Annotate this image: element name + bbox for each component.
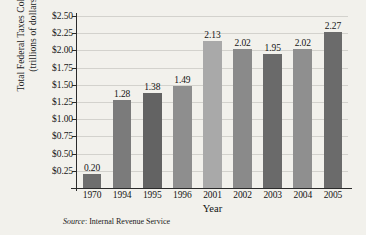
y-axis-tick-label: $1.00 xyxy=(33,114,73,124)
y-axis-tick-mark xyxy=(72,33,77,34)
bar-value-label: 1.38 xyxy=(144,82,160,92)
bar xyxy=(263,54,282,188)
bar-value-label: 0.20 xyxy=(84,163,100,173)
y-axis-tick-label: $1.75 xyxy=(33,63,73,73)
x-axis-tick-label: 2005 xyxy=(324,190,343,200)
bar-series: 0.201.281.381.492.132.021.952.022.27 xyxy=(77,16,348,188)
source-value: : Internal Revenue Service xyxy=(85,217,170,226)
y-axis-tick-mark xyxy=(72,136,77,137)
bar-slot: 1.38 xyxy=(143,16,162,188)
y-axis-tick-label: $1.25 xyxy=(33,97,73,107)
y-axis-tick-label: $2.50 xyxy=(33,11,73,21)
y-axis-tick-label: $0.75 xyxy=(33,131,73,141)
bar-slot: 2.02 xyxy=(293,16,312,188)
bar-slot: 1.95 xyxy=(263,16,282,188)
bar xyxy=(113,100,132,188)
y-axis-tick-label: $0.25 xyxy=(33,166,73,176)
x-axis-tick-label: 1996 xyxy=(173,190,192,200)
x-axis-tick-label: 2001 xyxy=(203,190,222,200)
bar-value-label: 2.13 xyxy=(204,30,220,40)
plot-area: 0.201.281.381.492.132.021.952.022.27 xyxy=(77,16,348,188)
x-axis-tick-label: 1995 xyxy=(143,190,162,200)
y-axis-tick-labels: $0.25$0.50$0.75$1.00$1.25$1.50$1.75$2.00… xyxy=(30,0,73,235)
x-axis-tick-label: 2002 xyxy=(233,190,252,200)
y-axis-tick-mark xyxy=(72,119,77,120)
y-axis-tick-mark xyxy=(72,102,77,103)
bar-slot: 0.20 xyxy=(83,16,102,188)
bar-value-label: 1.49 xyxy=(174,75,190,85)
x-axis-tick-label: 2004 xyxy=(294,190,313,200)
bar xyxy=(233,49,252,188)
bar-slot: 1.49 xyxy=(173,16,192,188)
bar xyxy=(203,41,222,188)
bar-slot: 2.02 xyxy=(233,16,252,188)
y-axis-tick-mark xyxy=(72,85,77,86)
bar xyxy=(293,49,312,188)
bar-value-label: 1.95 xyxy=(265,43,281,53)
y-axis-tick-mark xyxy=(72,154,77,155)
bar-value-label: 1.28 xyxy=(114,89,130,99)
bar-value-label: 2.27 xyxy=(325,21,341,31)
source-caption: Source: Internal Revenue Service xyxy=(63,217,170,226)
x-axis-title: Year xyxy=(77,203,348,214)
bar-slot: 2.27 xyxy=(324,16,343,188)
y-axis-tick-label: $0.50 xyxy=(33,149,73,159)
bar-chart-figure: Total Federal Taxes Collected (trillions… xyxy=(0,0,366,235)
y-axis-tick-mark xyxy=(72,68,77,69)
y-axis-tick-mark xyxy=(72,171,77,172)
bar-slot: 1.28 xyxy=(113,16,132,188)
x-axis-tick-label: 1970 xyxy=(83,190,102,200)
bar-value-label: 2.02 xyxy=(295,38,311,48)
bar xyxy=(173,86,192,189)
y-axis-tick-mark xyxy=(72,50,77,51)
y-axis-tick-label: $2.25 xyxy=(33,28,73,38)
y-axis-title-line1: Total Federal Taxes Collected xyxy=(16,0,28,119)
y-axis-tick-label: $2.00 xyxy=(33,45,73,55)
bar xyxy=(324,32,343,188)
bar xyxy=(143,93,162,188)
bar-slot: 2.13 xyxy=(203,16,222,188)
bar xyxy=(83,174,102,188)
y-axis-tick-mark xyxy=(72,16,77,17)
x-axis-tick-label: 2003 xyxy=(263,190,282,200)
bar-value-label: 2.02 xyxy=(234,38,250,48)
source-label: Source xyxy=(63,217,85,226)
x-axis-tick-label: 1994 xyxy=(113,190,132,200)
x-axis-tick-labels: 197019941995199620012002200320042005 xyxy=(77,190,348,203)
y-axis-tick-label: $1.50 xyxy=(33,80,73,90)
